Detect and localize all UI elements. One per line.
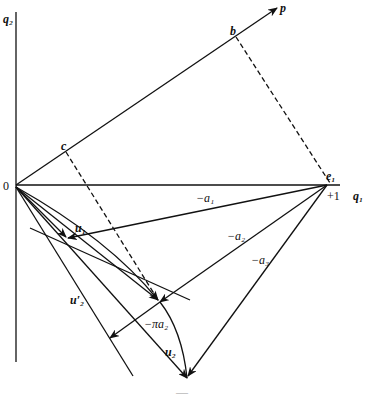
point-e1-label: e₁ — [326, 170, 336, 182]
vector-a3 — [188, 185, 327, 376]
point-u2-label: u₂ — [165, 346, 176, 358]
point-p-label: p — [280, 2, 286, 14]
q2-axis-label: q₂ — [3, 13, 13, 25]
point-c-label: c — [61, 140, 66, 152]
line-origin-a2 — [16, 187, 158, 300]
origin-label: 0 — [3, 180, 9, 192]
unit-label: +1 — [327, 190, 340, 202]
u1-line — [30, 228, 190, 300]
q1-axis-label: q₁ — [353, 190, 363, 202]
vector-a1-label: −a₁ — [196, 192, 214, 204]
point-b-label: b — [230, 25, 236, 37]
diagram-lines — [0, 0, 367, 398]
vector-a2-label: −a₂ — [227, 230, 245, 242]
line-origin-u2 — [16, 187, 187, 378]
curve-u2 — [160, 302, 187, 378]
vector-a3-label: −a₃ — [251, 254, 269, 266]
diagram-canvas: q₂ q₁ 0 +1 p b c e₁ u₁ u₂ u′₂ −a₁ −a₂ −a… — [0, 0, 367, 398]
figure-caption: — — [176, 386, 188, 398]
vector-pi-a2-label: −πa₂ — [144, 318, 168, 330]
point-u1-label: u₁ — [75, 222, 86, 234]
point-u2-prime-label: u′₂ — [70, 294, 84, 306]
p-ray — [16, 8, 277, 185]
projection-b — [236, 37, 330, 183]
line-u2prime — [16, 187, 133, 376]
